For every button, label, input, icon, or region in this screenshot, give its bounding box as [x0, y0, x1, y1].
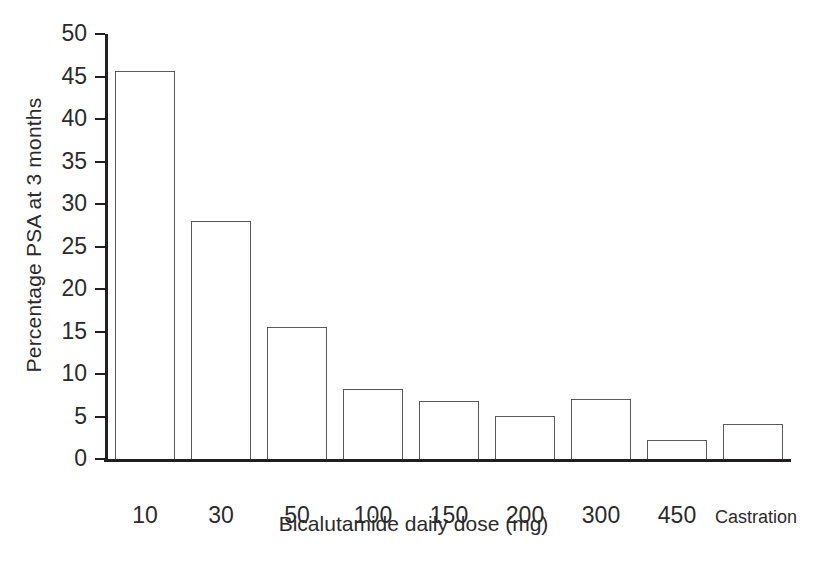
bar [267, 327, 328, 459]
y-axis-tick [95, 203, 105, 205]
y-axis-tick-label: 30 [41, 192, 87, 215]
y-axis-tick-label: 0 [41, 447, 87, 470]
y-axis-spine [105, 34, 108, 460]
y-axis-tick-label: 45 [41, 65, 87, 88]
y-axis-tick [95, 416, 105, 418]
bar [419, 401, 480, 459]
x-axis-title: Bicalutamide daily dose (mg) [0, 512, 827, 536]
y-axis-tick [95, 288, 105, 290]
bar [343, 389, 404, 459]
y-axis-tick [95, 118, 105, 120]
y-axis-tick-label: 35 [41, 150, 87, 173]
y-axis-tick [95, 246, 105, 248]
y-axis-tick [95, 458, 105, 460]
plot-area: 05101520253035404550 1030501001502003004… [107, 34, 791, 459]
y-axis-tick-label: 20 [41, 277, 87, 300]
y-axis-tick-label: 25 [41, 235, 87, 258]
chart-figure: Percentage PSA at 3 months 0510152025303… [0, 0, 827, 562]
y-axis-tick [95, 331, 105, 333]
y-axis-tick [95, 33, 105, 35]
y-axis-tick-label: 15 [41, 320, 87, 343]
y-axis-tick-label: 40 [41, 107, 87, 130]
bar [723, 424, 784, 459]
bar [115, 71, 176, 459]
bar [647, 440, 708, 459]
y-axis-tick-label: 5 [41, 405, 87, 428]
y-axis-tick-label: 10 [41, 362, 87, 385]
bar [571, 399, 632, 459]
y-axis-tick [95, 161, 105, 163]
x-axis-spine [104, 459, 791, 462]
y-axis-tick [95, 373, 105, 375]
bar [191, 221, 252, 459]
bar [495, 416, 556, 459]
y-axis-tick-label: 50 [41, 22, 87, 45]
y-axis-tick [95, 76, 105, 78]
